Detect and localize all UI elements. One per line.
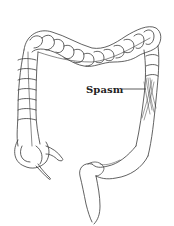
ascending-colon [17,50,24,146]
colon-diagram: Spasm [0,0,174,226]
transverse-colon [24,27,161,67]
colon-illustration [0,0,174,226]
appendix [36,164,50,179]
rectum [80,164,92,222]
spasm-region [142,78,156,120]
spasm-label: Spasm [86,84,123,95]
sigmoid-colon [92,146,136,167]
